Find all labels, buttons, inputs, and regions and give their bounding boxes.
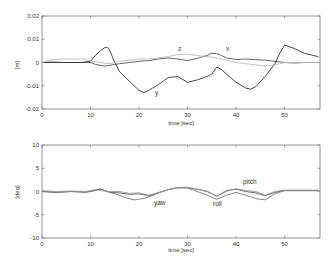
ytick-label: 0 [36,60,40,66]
ytick-label: -0.01 [25,83,39,89]
xtick-label: 0 [40,241,44,247]
top-xlabel: time [sec] [168,120,194,126]
series-label-z: z [178,45,181,52]
xtick-label: 20 [136,241,143,247]
ytick-label: 0.02 [27,13,39,19]
series-label-yaw: yaw [154,199,166,207]
ytick-label: -0.02 [25,106,39,112]
top-chart: 0.020.010-0.01-0.02 01020304050 [m] time… [14,13,320,126]
ytick-label: -10 [30,235,39,241]
ytick-label: 0 [36,189,40,195]
series-label-roll: roll [213,200,222,207]
xtick-label: 50 [281,112,288,118]
bottom-ylabel: [deg] [14,185,20,199]
xtick-label: 0 [40,112,44,118]
series-label-pitch: pitch [243,178,257,186]
xtick-label: 20 [136,112,143,118]
top-ylabel: [m] [14,61,20,70]
xtick-label: 10 [87,112,94,118]
bottom-xlabel: time [sec] [168,247,194,253]
ytick-label: 10 [32,142,39,148]
ytick-label: 0.01 [27,36,39,42]
xtick-label: 10 [87,241,94,247]
xtick-label: 50 [281,241,288,247]
bottom-chart: 1050-5-10 01020304050 [deg] time [sec] y… [14,142,320,253]
ytick-label: -5 [34,212,40,218]
ytick-label: 5 [36,165,40,171]
figure: 0.020.010-0.01-0.02 01020304050 [m] time… [0,0,336,264]
xtick-label: 30 [184,112,191,118]
xtick-label: 40 [233,112,240,118]
xtick-label: 40 [233,241,240,247]
